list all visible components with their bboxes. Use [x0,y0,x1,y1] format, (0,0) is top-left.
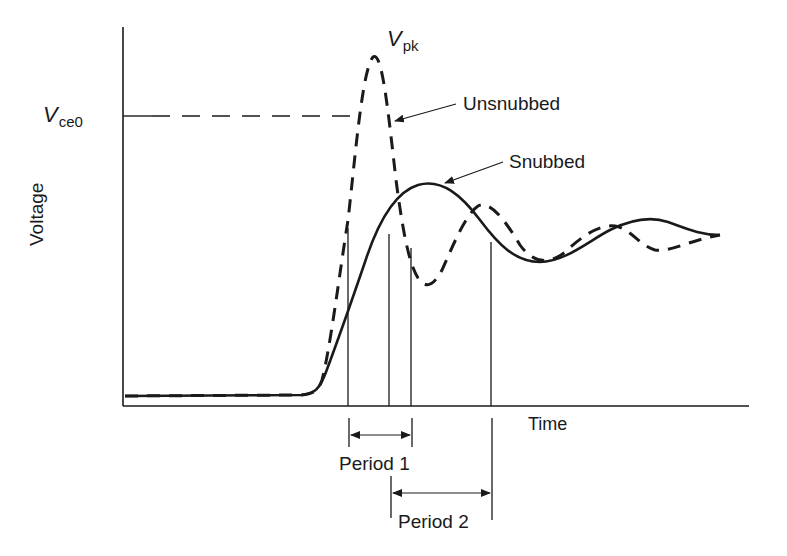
vpk-subscript: pk [403,37,419,54]
vce0-symbol: V [43,102,58,127]
unsnubbed-curve [125,56,720,396]
period1-label: Period 1 [339,454,410,473]
vpk-symbol: V [387,26,402,51]
unsnubbed-label: Unsnubbed [463,94,560,113]
unsnubbed-leader-arrow [395,104,456,121]
vce0-label: Vce0 [43,104,83,126]
snubbed-leader-arrow [445,162,503,183]
vpk-label: Vpk [387,28,419,50]
period2-label: Period 2 [398,512,469,531]
vce0-subscript: ce0 [59,113,83,130]
snubbed-curve [125,183,720,396]
y-axis-label: Voltage [26,183,48,246]
snubbed-label: Snubbed [509,152,585,171]
x-axis-label: Time [528,415,567,433]
